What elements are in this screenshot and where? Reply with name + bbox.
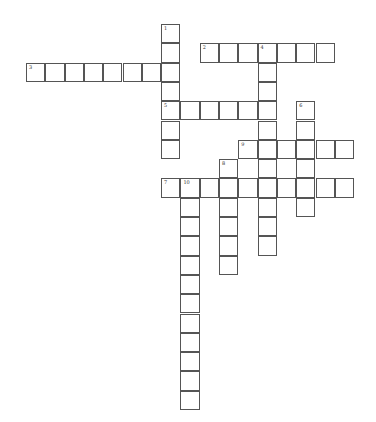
crossword-cell[interactable] xyxy=(180,371,199,390)
crossword-cell[interactable] xyxy=(180,198,199,217)
crossword-cell[interactable] xyxy=(258,159,277,178)
crossword-cell[interactable] xyxy=(316,178,335,197)
crossword-cell[interactable] xyxy=(296,159,315,178)
crossword-cell[interactable]: 4 xyxy=(258,43,277,62)
crossword-cell[interactable] xyxy=(65,63,84,82)
crossword-cell[interactable] xyxy=(161,121,180,140)
crossword-cell[interactable]: 3 xyxy=(26,63,45,82)
crossword-cell[interactable]: 1 xyxy=(161,24,180,43)
clue-number: 7 xyxy=(164,180,167,185)
crossword-cell[interactable] xyxy=(142,63,161,82)
crossword-cell[interactable]: 5 xyxy=(161,101,180,120)
crossword-cell[interactable] xyxy=(180,256,199,275)
crossword-cell[interactable]: 2 xyxy=(200,43,219,62)
crossword-cell[interactable] xyxy=(180,275,199,294)
crossword-cell[interactable] xyxy=(335,178,354,197)
crossword-cell[interactable] xyxy=(180,352,199,371)
crossword-cell[interactable]: 7 xyxy=(161,178,180,197)
crossword-cell[interactable] xyxy=(296,178,315,197)
crossword-cell[interactable] xyxy=(219,198,238,217)
clue-number: 5 xyxy=(164,103,167,108)
crossword-cell[interactable] xyxy=(258,82,277,101)
crossword-cell[interactable] xyxy=(296,140,315,159)
crossword-cell[interactable] xyxy=(316,43,335,62)
crossword-cell[interactable] xyxy=(258,140,277,159)
clue-number: 8 xyxy=(222,161,225,166)
crossword-cell[interactable] xyxy=(103,63,122,82)
crossword-cell[interactable] xyxy=(258,101,277,120)
crossword-cell[interactable]: 10 xyxy=(180,178,199,197)
crossword-cell[interactable] xyxy=(200,178,219,197)
crossword-cell[interactable] xyxy=(258,198,277,217)
clue-number: 2 xyxy=(203,45,206,50)
crossword-cell[interactable] xyxy=(258,121,277,140)
crossword-cell[interactable] xyxy=(161,140,180,159)
crossword-cell[interactable] xyxy=(180,101,199,120)
crossword-cell[interactable] xyxy=(219,217,238,236)
crossword-cell[interactable] xyxy=(258,236,277,255)
crossword-cell[interactable] xyxy=(45,63,64,82)
crossword-cell[interactable] xyxy=(335,140,354,159)
crossword-cell[interactable] xyxy=(258,178,277,197)
crossword-cell[interactable] xyxy=(180,333,199,352)
crossword-cell[interactable] xyxy=(258,63,277,82)
crossword-cell[interactable] xyxy=(180,294,199,313)
crossword-cell[interactable] xyxy=(219,101,238,120)
clue-number: 9 xyxy=(241,142,244,147)
crossword-cell[interactable] xyxy=(180,391,199,410)
crossword-cell[interactable] xyxy=(84,63,103,82)
crossword-cell[interactable]: 9 xyxy=(238,140,257,159)
crossword-cell[interactable] xyxy=(180,314,199,333)
crossword-cell[interactable] xyxy=(123,63,142,82)
crossword-cell[interactable] xyxy=(238,178,257,197)
crossword-cell[interactable] xyxy=(258,217,277,236)
clue-number: 10 xyxy=(183,180,189,185)
crossword-cell[interactable] xyxy=(200,101,219,120)
crossword-cell[interactable] xyxy=(180,236,199,255)
crossword-cell[interactable] xyxy=(161,82,180,101)
crossword-cell[interactable] xyxy=(161,43,180,62)
crossword-cell[interactable]: 6 xyxy=(296,101,315,120)
crossword-grid: 15243671089 xyxy=(0,0,376,422)
crossword-cell[interactable] xyxy=(219,43,238,62)
crossword-cell[interactable]: 8 xyxy=(219,159,238,178)
clue-number: 1 xyxy=(164,26,167,31)
crossword-cell[interactable] xyxy=(296,121,315,140)
crossword-cell[interactable] xyxy=(296,198,315,217)
clue-number: 3 xyxy=(29,65,32,70)
crossword-cell[interactable] xyxy=(161,63,180,82)
crossword-cell[interactable] xyxy=(219,178,238,197)
crossword-cell[interactable] xyxy=(296,43,315,62)
crossword-cell[interactable] xyxy=(277,140,296,159)
crossword-cell[interactable] xyxy=(219,236,238,255)
crossword-cell[interactable] xyxy=(277,43,296,62)
crossword-cell[interactable] xyxy=(316,140,335,159)
crossword-cell[interactable] xyxy=(238,43,257,62)
clue-number: 6 xyxy=(299,103,302,108)
crossword-cell[interactable] xyxy=(277,178,296,197)
crossword-cell[interactable] xyxy=(180,217,199,236)
clue-number: 4 xyxy=(261,45,264,50)
crossword-cell[interactable] xyxy=(219,256,238,275)
crossword-cell[interactable] xyxy=(238,101,257,120)
